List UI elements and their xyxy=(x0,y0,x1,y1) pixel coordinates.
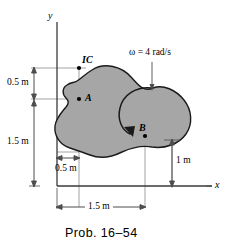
dim-left-lower-arrow-top xyxy=(32,100,37,106)
dimension-left-lower xyxy=(29,100,40,187)
dimension-label-bottom-long: 1.5 m xyxy=(85,202,113,212)
y-axis-label: y xyxy=(48,11,52,21)
diagram-canvas xyxy=(0,0,232,248)
point-label-a: A xyxy=(85,93,92,103)
point-label-b: B xyxy=(139,123,146,133)
point-label-ic: IC xyxy=(82,55,93,65)
omega-label: ω = 4 rad/s xyxy=(129,48,171,58)
point-marker-a xyxy=(77,97,81,101)
dimension-label-left-upper: 0.5 m xyxy=(7,78,29,88)
dimension-label-bottom-short: 0.5 m xyxy=(55,164,77,174)
figure-container: y x IC A B ω = 4 rad/s 0.5 m 1.5 m 0.5 m… xyxy=(0,0,232,248)
point-marker-ic xyxy=(77,66,81,70)
figure-caption: Prob. 16–54 xyxy=(65,226,138,240)
x-axis-label: x xyxy=(215,180,219,190)
dimension-label-left-lower: 1.5 m xyxy=(7,137,29,147)
dimension-left-upper xyxy=(32,67,37,100)
dimension-bottom-short xyxy=(56,156,80,161)
dimension-label-right: 1 m xyxy=(176,156,191,166)
point-marker-b xyxy=(143,134,147,138)
